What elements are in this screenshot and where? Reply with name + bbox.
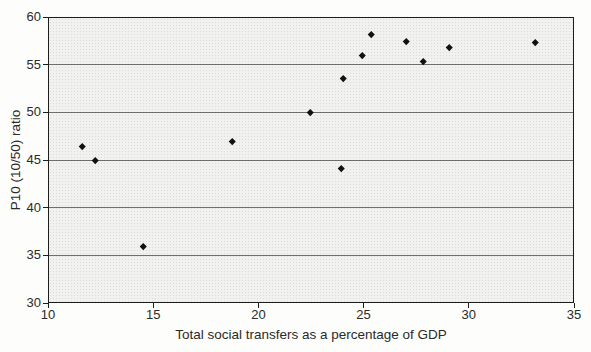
x-tick-mark (153, 303, 154, 308)
y-tick-label-55: 55 (0, 58, 41, 72)
data-point (92, 157, 98, 163)
x-tick-label-30: 30 (452, 308, 486, 322)
data-point (403, 38, 409, 44)
x-tick-mark (363, 303, 364, 308)
data-point (338, 165, 344, 171)
data-point (420, 58, 426, 64)
gridline-y-40 (49, 207, 573, 208)
scatter-chart: 30354045505560101520253035 P10 (10/50) r… (0, 0, 591, 352)
plot-area (48, 17, 574, 303)
y-tick-mark (43, 207, 48, 208)
y-tick-mark (43, 255, 48, 256)
data-point (79, 144, 85, 150)
x-tick-mark (574, 303, 575, 308)
data-point (307, 109, 313, 115)
data-point (532, 39, 538, 45)
x-axis-title: Total social transfers as a percentage o… (48, 327, 574, 342)
y-tick-label-60: 60 (0, 10, 41, 24)
gridline-y-55 (49, 64, 573, 65)
y-tick-label-35: 35 (0, 248, 41, 262)
y-tick-mark (43, 112, 48, 113)
data-point (368, 31, 374, 37)
x-tick-label-15: 15 (136, 308, 170, 322)
data-point (140, 243, 146, 249)
gridline-y-35 (49, 255, 573, 256)
x-tick-mark (468, 303, 469, 308)
y-tick-mark (43, 17, 48, 18)
y-tick-mark (43, 160, 48, 161)
x-tick-mark (258, 303, 259, 308)
x-tick-label-25: 25 (347, 308, 381, 322)
data-point (446, 44, 452, 50)
y-tick-mark (43, 64, 48, 65)
y-axis-title: P10 (10/50) ratio (8, 110, 23, 211)
data-point (359, 52, 365, 58)
x-tick-label-20: 20 (241, 308, 275, 322)
data-point (340, 75, 346, 81)
gridline-y-45 (49, 160, 573, 161)
x-tick-mark (48, 303, 49, 308)
x-tick-label-10: 10 (31, 308, 65, 322)
x-tick-label-35: 35 (557, 308, 591, 322)
data-point (229, 138, 235, 144)
